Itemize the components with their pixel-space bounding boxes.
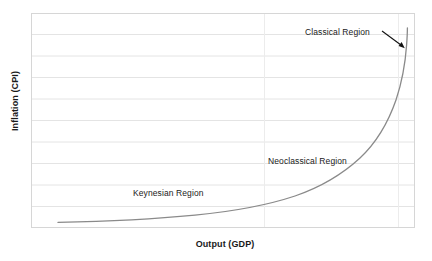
x-axis-label: Output (GDP)	[135, 239, 315, 249]
plot-canvas	[0, 0, 432, 261]
annotation-classical-region: Classical Region	[305, 27, 370, 37]
y-axis-label: Inflation (CPI)	[10, 58, 20, 144]
annotation-neoclassical-region: Neoclassical Region	[268, 156, 347, 166]
annotation-keynesian-region: Keynesian Region	[133, 188, 204, 198]
chart-figure: Inflation (CPI) Output (GDP) Classical R…	[0, 0, 432, 261]
